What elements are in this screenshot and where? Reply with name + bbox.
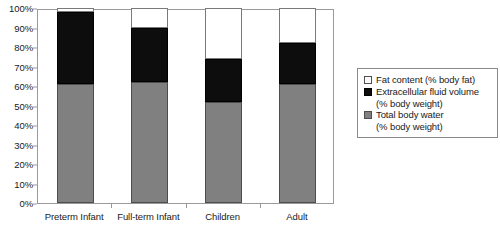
- plot-area: [37, 9, 334, 204]
- bar-segment-fat-content: [131, 8, 168, 28]
- y-axis-tick-label: 10%: [0, 180, 33, 190]
- bar-segment-fat-content: [205, 8, 242, 59]
- chart-container: 100%90%80%70%60%50%40%30%20%10%0% Preter…: [0, 0, 345, 235]
- x-axis-tick-label: Adult: [260, 211, 334, 222]
- stacked-bar: [205, 10, 242, 203]
- bar-segment-extracellular-fluid: [279, 43, 316, 84]
- x-axis-tick-mark: [111, 204, 112, 208]
- legend-swatch-extracellular-fluid: [364, 88, 372, 96]
- y-axis-tick-label: 90%: [0, 24, 33, 34]
- legend-item: Total body water: [364, 109, 491, 120]
- legend-swatch-total-body-water: [364, 111, 372, 119]
- bar-segment-fat-content: [57, 8, 94, 12]
- stacked-bar: [279, 10, 316, 203]
- x-axis-tick-label: Preterm Infant: [37, 211, 111, 222]
- bar-group: [57, 10, 94, 203]
- legend-item: Fat content (% body fat): [364, 74, 491, 85]
- bar-group: [279, 10, 316, 203]
- legend-item-label-continued: (% body weight): [376, 98, 491, 109]
- y-axis-tick-label: 100%: [0, 4, 33, 14]
- legend-item-label: Fat content (% body fat): [376, 74, 475, 85]
- x-axis-tick-mark: [186, 204, 187, 208]
- legend-item-label-continued: (% body weight): [376, 121, 491, 132]
- y-axis-tick-label: 70%: [0, 63, 33, 73]
- bar-group: [205, 10, 242, 203]
- legend-item: Extracellular fluid volume: [364, 86, 491, 97]
- y-axis-tick-label: 40%: [0, 121, 33, 131]
- x-axis: Preterm InfantFull-term InfantChildrenAd…: [37, 207, 334, 229]
- bar-segment-extracellular-fluid: [57, 12, 94, 84]
- bar-segment-fat-content: [279, 8, 316, 43]
- y-axis-tick-label: 80%: [0, 43, 33, 53]
- legend-swatch-fat-content: [364, 76, 372, 84]
- x-axis-tick-label: Full-term Infant: [111, 211, 185, 222]
- chart-legend: Fat content (% body fat)Extracellular fl…: [357, 68, 498, 138]
- bar-segment-total-body-water: [279, 84, 316, 203]
- y-axis-tick-label: 20%: [0, 160, 33, 170]
- x-axis-tick-mark: [260, 204, 261, 208]
- y-axis-tick-label: 0%: [0, 199, 33, 209]
- bar-segment-extracellular-fluid: [205, 59, 242, 102]
- y-axis-tick-label: 50%: [0, 102, 33, 112]
- bar-group: [131, 10, 168, 203]
- bar-segment-total-body-water: [131, 82, 168, 203]
- y-axis-tick-label: 60%: [0, 82, 33, 92]
- stacked-bar: [131, 10, 168, 203]
- bar-segment-total-body-water: [57, 84, 94, 203]
- bar-segment-extracellular-fluid: [131, 28, 168, 83]
- stacked-bar: [57, 10, 94, 203]
- y-axis: 100%90%80%70%60%50%40%30%20%10%0%: [0, 9, 33, 204]
- y-axis-tick-label: 30%: [0, 141, 33, 151]
- bar-segment-total-body-water: [205, 102, 242, 203]
- legend-item-label: Extracellular fluid volume: [376, 86, 479, 97]
- legend-item-label: Total body water: [376, 109, 444, 120]
- x-axis-tick-label: Children: [186, 211, 260, 222]
